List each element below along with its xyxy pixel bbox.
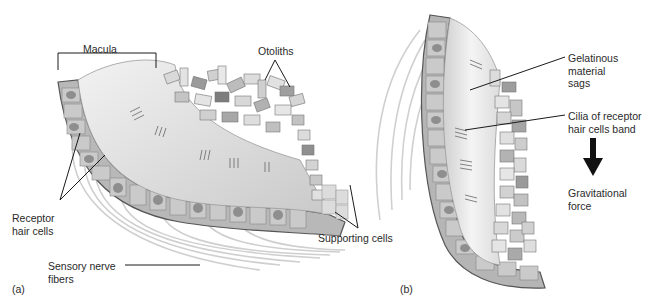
label-otoliths: Otoliths — [258, 45, 294, 58]
label-cilia-band: Cilia of receptor hair cells band — [568, 110, 642, 135]
panel-a-illustration — [58, 60, 348, 270]
otolith-organ-diagram: Macula Otoliths Receptor hair cells Supp… — [0, 0, 653, 306]
gravitational-force-arrow — [583, 138, 603, 176]
supporting-cells-block — [322, 185, 348, 219]
otoliths-b — [490, 70, 536, 260]
label-sensory-nerve-fibers: Sensory nerve fibers — [48, 260, 116, 285]
panel-a-tag: (a) — [12, 283, 25, 296]
panel-b-illustration — [376, 15, 545, 288]
panel-b-tag: (b) — [400, 283, 413, 296]
label-receptor-hair-cells: Receptor hair cells — [12, 212, 55, 237]
label-supporting-cells: Supporting cells — [318, 232, 393, 245]
label-gravitational-force: Gravitational force — [568, 187, 627, 212]
label-gelatinous-material: Gelatinous material sags — [568, 52, 618, 90]
label-macula: Macula — [83, 43, 117, 56]
